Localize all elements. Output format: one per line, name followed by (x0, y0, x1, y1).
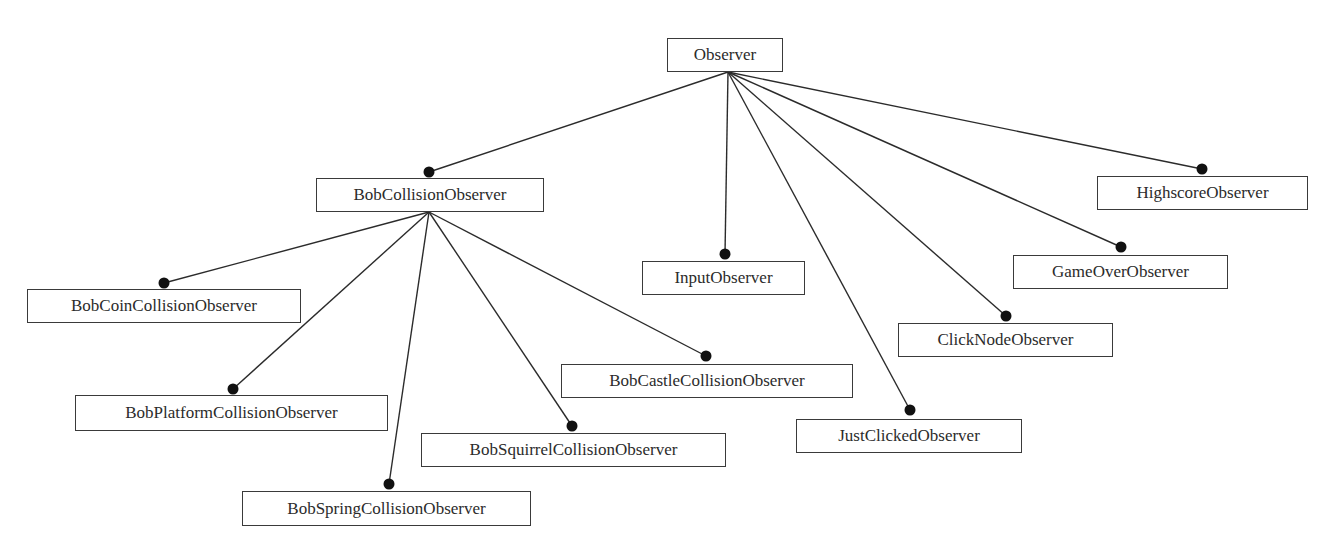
edge-observer-to-just-clicked (728, 72, 910, 410)
edge-observer-to-bob-collision (429, 72, 728, 172)
class-node-bob-coin: BobCoinCollisionObserver (27, 289, 301, 323)
edge-bob-collision-to-bob-squirrel (429, 212, 572, 426)
association-dot-icon (720, 249, 731, 260)
class-label: Observer (694, 45, 756, 65)
class-label: BobSpringCollisionObserver (287, 499, 485, 519)
class-node-bob-platform: BobPlatformCollisionObserver (75, 395, 388, 431)
association-dot-icon (228, 384, 239, 395)
edge-observer-to-input (725, 72, 728, 254)
edge-observer-to-game-over (728, 72, 1121, 247)
association-dot-icon (905, 405, 916, 416)
class-label: BobCoinCollisionObserver (71, 296, 257, 316)
class-node-highscore: HighscoreObserver (1097, 176, 1308, 210)
association-dot-icon (1197, 164, 1208, 175)
class-label: BobCollisionObserver (354, 185, 507, 205)
association-dot-icon (384, 479, 395, 490)
class-node-bob-castle: BobCastleCollisionObserver (561, 364, 853, 398)
class-node-bob-squirrel: BobSquirrelCollisionObserver (421, 433, 726, 467)
class-label: ClickNodeObserver (938, 330, 1074, 350)
class-node-click-node: ClickNodeObserver (898, 323, 1113, 357)
association-dot-icon (159, 278, 170, 289)
edge-observer-to-highscore (728, 72, 1202, 169)
association-dot-icon (1001, 311, 1012, 322)
class-node-just-clicked: JustClickedObserver (796, 419, 1022, 453)
association-dot-icon (701, 351, 712, 362)
class-label: InputObserver (674, 268, 772, 288)
association-dot-icon (567, 421, 578, 432)
class-node-input: InputObserver (642, 261, 805, 295)
class-label: GameOverObserver (1052, 262, 1189, 282)
class-node-game-over: GameOverObserver (1013, 255, 1228, 289)
class-node-bob-collision: BobCollisionObserver (316, 178, 544, 212)
class-label: BobPlatformCollisionObserver (125, 403, 337, 423)
class-label: BobSquirrelCollisionObserver (470, 440, 678, 460)
class-node-bob-spring: BobSpringCollisionObserver (242, 491, 531, 526)
class-label: BobCastleCollisionObserver (609, 371, 804, 391)
class-node-observer: Observer (667, 38, 783, 72)
association-dot-icon (424, 167, 435, 178)
class-label: JustClickedObserver (838, 426, 980, 446)
class-label: HighscoreObserver (1136, 183, 1268, 203)
association-dot-icon (1116, 242, 1127, 253)
